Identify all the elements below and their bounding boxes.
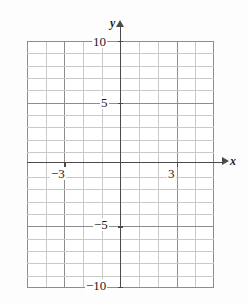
y-axis-arrow-icon (116, 20, 124, 27)
coordinate-grid-figure: x y 10 5 −5 −10 −3 3 (0, 0, 247, 304)
x-axis-label: x (230, 155, 236, 167)
y-tick-pos10 (118, 41, 123, 42)
y-tick-label-5: 5 (100, 96, 109, 109)
y-axis-line (120, 22, 122, 288)
x-tick-label-neg3: −3 (50, 167, 66, 180)
y-tick-label-neg10: −10 (85, 279, 107, 292)
x-tick-label-3: 3 (167, 167, 176, 180)
x-axis-line (27, 162, 224, 164)
x-tick-pos3 (177, 162, 178, 167)
y-tick-neg10 (118, 287, 123, 288)
y-tick-label-10: 10 (92, 35, 107, 48)
y-tick-pos5 (118, 103, 123, 104)
y-tick-neg5 (118, 226, 123, 227)
x-axis-arrow-icon (222, 157, 229, 165)
y-axis-label: y (110, 17, 115, 29)
y-tick-label-neg5: −5 (93, 218, 109, 231)
